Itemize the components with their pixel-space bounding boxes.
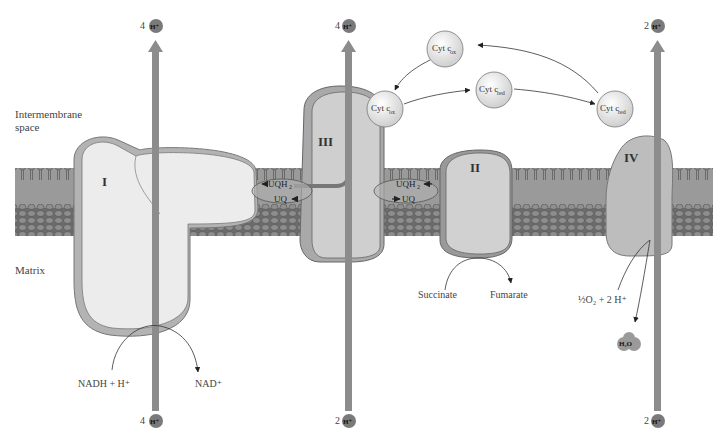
nad-label: NAD⁺: [195, 378, 222, 389]
nadh-label: NADH + H⁺: [78, 378, 130, 389]
cyt-c-mid: Cyt c red: [476, 72, 512, 108]
complex-IV-label: IV: [624, 150, 639, 165]
svg-text:UQH: UQH: [268, 179, 288, 189]
svg-text:ox: ox: [389, 109, 395, 115]
proton-complex-I-top: 4 H⁺: [140, 19, 163, 33]
svg-text:UQ: UQ: [402, 194, 415, 204]
svg-text:Cyt c: Cyt c: [371, 103, 390, 113]
svg-text:H⁺: H⁺: [343, 418, 352, 426]
svg-text:Cyt c: Cyt c: [600, 103, 619, 113]
svg-text:UQ: UQ: [274, 194, 287, 204]
succinate-reaction: Succinate Fumarate: [418, 258, 528, 300]
svg-text:red: red: [497, 90, 505, 96]
oxygen-label: ½O₂ + 2 H⁺: [578, 294, 627, 305]
svg-text:4: 4: [335, 20, 340, 31]
complex-IV: IV: [606, 136, 673, 256]
svg-text:2: 2: [335, 415, 340, 426]
proton-complex-IV-bottom: 2 H⁺: [644, 414, 665, 428]
svg-text:Cyt c: Cyt c: [432, 43, 451, 53]
complex-II-label: II: [470, 160, 480, 175]
cyt-c-left: Cyt c ox: [367, 91, 403, 127]
svg-text:2: 2: [644, 415, 649, 426]
svg-text:4: 4: [140, 20, 145, 31]
proton-complex-III-top: 4 H⁺: [335, 19, 356, 33]
svg-text:2: 2: [417, 184, 420, 190]
complex-II: II: [440, 150, 512, 258]
complex-III-label: III: [318, 134, 333, 149]
cyt-c-top: Cyt c ox: [427, 31, 463, 67]
svg-text:Cyt c: Cyt c: [479, 84, 498, 94]
svg-text:H⁺: H⁺: [150, 418, 159, 426]
oxygen-reaction: ½O₂ + 2 H⁺ H₂O: [578, 240, 650, 351]
proton-complex-IV-top: 2 H⁺: [644, 19, 665, 33]
complex-I: I: [74, 137, 258, 336]
intermembrane-label-2: space: [15, 121, 40, 133]
succinate-label: Succinate: [418, 289, 457, 300]
svg-text:H⁺: H⁺: [343, 23, 352, 31]
water-label: H₂O: [619, 340, 633, 348]
etc-diagram: Intermembrane space Matrix I III II IV U…: [0, 0, 725, 443]
proton-complex-III-bottom: 2 H⁺: [335, 414, 356, 428]
intermembrane-label: Intermembrane: [15, 108, 82, 120]
cyt-c-right: Cyt c red: [597, 91, 633, 127]
svg-text:2: 2: [289, 184, 292, 190]
fumarate-label: Fumarate: [490, 289, 528, 300]
matrix-label: Matrix: [15, 264, 45, 276]
proton-complex-I-bottom: 4 H⁺: [140, 414, 163, 428]
svg-text:red: red: [618, 109, 626, 115]
svg-text:4: 4: [140, 415, 145, 426]
svg-text:ox: ox: [450, 49, 456, 55]
svg-text:H⁺: H⁺: [150, 23, 159, 31]
svg-text:H⁺: H⁺: [652, 418, 661, 426]
svg-text:H⁺: H⁺: [652, 23, 661, 31]
svg-text:UQH: UQH: [396, 179, 416, 189]
svg-text:2: 2: [644, 20, 649, 31]
complex-I-label: I: [102, 174, 107, 189]
